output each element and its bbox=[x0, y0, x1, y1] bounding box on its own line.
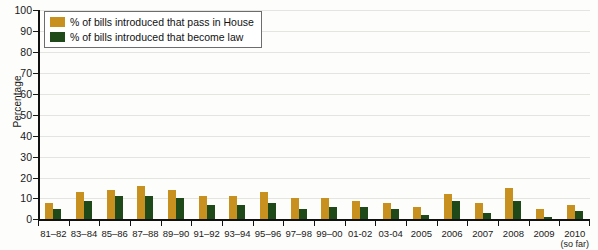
bar bbox=[475, 203, 483, 220]
x-axis-tick-label: 93–94 bbox=[222, 228, 253, 239]
y-axis-tick-label: 90 bbox=[20, 25, 32, 37]
bar bbox=[413, 207, 421, 220]
bar bbox=[444, 194, 452, 219]
x-axis-tick-label: 2008 bbox=[498, 228, 529, 239]
bar bbox=[199, 196, 207, 219]
x-axis-category: 85–86 bbox=[99, 221, 130, 250]
x-axis-category: 2006 bbox=[437, 221, 468, 250]
x-axis-tick-labels: 81–8283–8485–8687–8889–9091–9293–9495–96… bbox=[38, 221, 590, 250]
x-axis-tick-mark bbox=[345, 221, 346, 226]
x-axis-tick-mark bbox=[222, 221, 223, 226]
x-axis-tick-label: 85–86 bbox=[99, 228, 130, 239]
y-axis-tick-label: 30 bbox=[20, 151, 32, 163]
x-axis-tick-sublabel: (so far) bbox=[559, 239, 590, 249]
x-axis-category: 2005 bbox=[406, 221, 437, 250]
x-axis-tick-mark bbox=[406, 221, 407, 226]
x-axis-tick-label: 2010 bbox=[559, 228, 590, 239]
x-axis-category: 95–96 bbox=[253, 221, 284, 250]
x-axis-tick-mark bbox=[467, 221, 468, 226]
x-axis-tick-label: 03-04 bbox=[375, 228, 406, 239]
x-axis-tick-label: 2007 bbox=[467, 228, 498, 239]
x-axis-category: 93–94 bbox=[222, 221, 253, 250]
x-axis-category: 81–82 bbox=[38, 221, 69, 250]
legend-swatch-pass-in-house bbox=[50, 17, 65, 27]
bar bbox=[260, 192, 268, 219]
bar bbox=[229, 196, 237, 219]
y-axis-tick-label: 100 bbox=[14, 4, 32, 16]
bar bbox=[268, 203, 276, 220]
y-axis-tick-label: 60 bbox=[20, 88, 32, 100]
bar-group bbox=[529, 10, 560, 219]
x-axis-tick-label: 83–84 bbox=[69, 228, 100, 239]
y-axis-tick-label: 70 bbox=[20, 67, 32, 79]
x-axis-tick-label: 2005 bbox=[406, 228, 437, 239]
x-axis-tick-label: 2006 bbox=[437, 228, 468, 239]
x-axis-tick-label: 2009 bbox=[529, 228, 560, 239]
x-axis-category: 01-02 bbox=[345, 221, 376, 250]
bar-group bbox=[498, 10, 529, 219]
bar bbox=[45, 203, 53, 220]
chart-legend: % of bills introduced that pass in House… bbox=[44, 11, 262, 48]
x-axis-category: 83–84 bbox=[69, 221, 100, 250]
x-axis-category: 91–92 bbox=[191, 221, 222, 250]
y-axis-tick-label: 20 bbox=[20, 172, 32, 184]
x-axis-category: 99–00 bbox=[314, 221, 345, 250]
x-axis-tick-label: 81–82 bbox=[38, 228, 69, 239]
bar bbox=[107, 190, 115, 219]
bar bbox=[383, 203, 391, 220]
bar-group bbox=[314, 10, 345, 219]
x-axis-tick-mark bbox=[253, 221, 254, 226]
y-axis-tick-label: 40 bbox=[20, 130, 32, 142]
x-axis-tick-mark bbox=[38, 221, 39, 226]
bar bbox=[513, 201, 521, 220]
x-axis-tick-mark bbox=[529, 221, 530, 226]
y-axis-tick-label: 0 bbox=[26, 213, 32, 225]
x-axis-tick-mark bbox=[69, 221, 70, 226]
bar bbox=[176, 198, 184, 219]
x-axis-tick-mark bbox=[375, 221, 376, 226]
legend-item-pass-in-house: % of bills introduced that pass in House bbox=[50, 16, 254, 28]
y-axis-tick-label: 80 bbox=[20, 46, 32, 58]
bar-group bbox=[406, 10, 437, 219]
legend-label-become-law: % of bills introduced that become law bbox=[70, 31, 243, 43]
x-axis-end-tick bbox=[589, 221, 590, 226]
bar-group bbox=[345, 10, 376, 219]
x-axis-tick-label: 97–98 bbox=[283, 228, 314, 239]
x-axis-tick-label: 95–96 bbox=[253, 228, 284, 239]
legend-label-pass-in-house: % of bills introduced that pass in House bbox=[70, 16, 254, 28]
x-axis-tick-label: 89–90 bbox=[161, 228, 192, 239]
y-axis-tick-label: 50 bbox=[20, 109, 32, 121]
bar bbox=[505, 188, 513, 219]
x-axis-tick-mark bbox=[161, 221, 162, 226]
bar bbox=[321, 198, 329, 219]
bar bbox=[76, 192, 84, 219]
bar bbox=[575, 211, 583, 219]
bar-group bbox=[559, 10, 590, 219]
bar bbox=[567, 205, 575, 220]
bar-group bbox=[283, 10, 314, 219]
x-axis-category: 89–90 bbox=[161, 221, 192, 250]
x-axis-tick-label: 01-02 bbox=[345, 228, 376, 239]
x-axis-tick-mark bbox=[130, 221, 131, 226]
bar-group bbox=[375, 10, 406, 219]
x-axis-tick-mark bbox=[283, 221, 284, 226]
x-axis-tick-label: 91–92 bbox=[191, 228, 222, 239]
bar bbox=[53, 209, 61, 219]
bar-chart: Percentage 0102030405060708090100 81–828… bbox=[0, 0, 598, 250]
bar-group bbox=[467, 10, 498, 219]
x-axis-category: 03-04 bbox=[375, 221, 406, 250]
bar bbox=[168, 190, 176, 219]
x-axis-category: 2009 bbox=[529, 221, 560, 250]
bar bbox=[115, 196, 123, 219]
legend-item-become-law: % of bills introduced that become law bbox=[50, 31, 254, 43]
bar bbox=[360, 207, 368, 220]
x-axis-tick-mark bbox=[498, 221, 499, 226]
x-axis-tick-mark bbox=[191, 221, 192, 226]
bar bbox=[137, 186, 145, 220]
bar bbox=[145, 196, 153, 219]
x-axis-tick-label: 99–00 bbox=[314, 228, 345, 239]
x-axis-tick-mark bbox=[314, 221, 315, 226]
bar bbox=[536, 209, 544, 219]
x-axis-category: 2010(so far) bbox=[559, 221, 590, 250]
bar bbox=[237, 205, 245, 220]
